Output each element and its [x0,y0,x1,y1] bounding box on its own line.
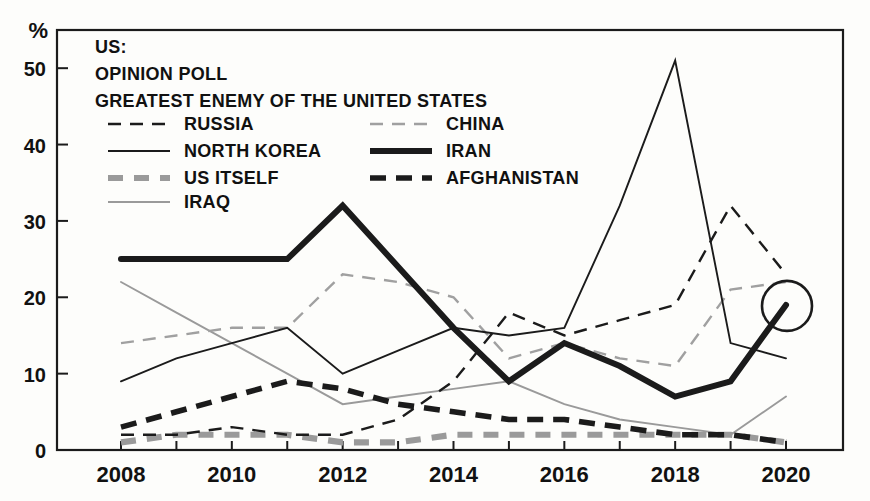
legend-item-iran[interactable]: IRAN [370,141,491,161]
legend-item-iraq[interactable]: IRAQ [108,192,230,212]
legend-label: CHINA [446,114,505,134]
topic-label: GREATEST ENEMY OF THE UNITED STATES [95,91,487,111]
y-tick-label: 40 [24,135,46,157]
x-tick-label: 2018 [651,462,700,487]
legend-label: NORTH KOREA [184,141,321,161]
y-axis-ticks: 01020304050 [24,58,68,462]
line-chart-svg: % 01020304050 20082010201220142016201820… [0,0,870,501]
x-tick-label: 2016 [540,462,589,487]
y-tick-label: 30 [24,211,46,233]
legend-label: IRAQ [184,192,230,212]
chart-title-block: US: OPINION POLL GREATEST ENEMY OF THE U… [95,37,487,111]
legend-item-afghanistan[interactable]: AFGHANISTAN [370,168,579,188]
chart-container: % 01020304050 20082010201220142016201820… [0,0,870,501]
series-line-russia [121,206,786,435]
x-tick-label: 2020 [762,462,811,487]
series-line-iran [121,206,786,397]
legend-label: RUSSIA [184,114,254,134]
source-label: US: [95,37,127,57]
legend-label: US ITSELF [184,168,279,188]
subtitle-label: OPINION POLL [95,64,228,84]
x-axis-ticks: 2008201020122014201620182020 [97,441,811,487]
legend-label: IRAN [446,141,491,161]
legend: RUSSIANORTH KOREAUS ITSELFIRAQCHINAIRANA… [108,114,579,212]
y-axis-unit-label: % [28,18,48,43]
series-line-china [121,274,786,366]
legend-item-china[interactable]: CHINA [370,114,505,134]
y-tick-label: 10 [24,364,46,386]
y-tick-label: 20 [24,287,46,309]
x-tick-label: 2012 [318,462,367,487]
legend-item-us-itself[interactable]: US ITSELF [108,168,279,188]
legend-item-north-korea[interactable]: NORTH KOREA [108,141,321,161]
y-tick-label: 50 [24,58,46,80]
y-tick-label: 0 [35,440,46,462]
x-tick-label: 2014 [429,462,479,487]
legend-item-russia[interactable]: RUSSIA [108,114,254,134]
legend-label: AFGHANISTAN [446,168,579,188]
x-tick-label: 2008 [97,462,146,487]
x-tick-label: 2010 [207,462,256,487]
